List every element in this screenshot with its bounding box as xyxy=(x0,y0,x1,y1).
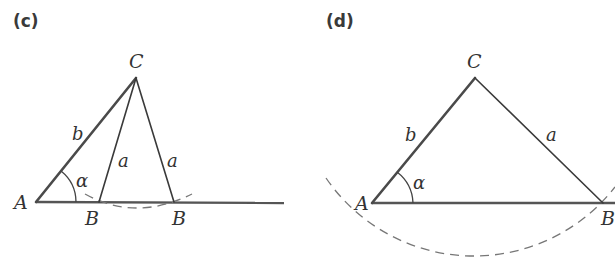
panel-d-label: (d) xyxy=(326,11,354,31)
panel-c-label-b: b xyxy=(72,123,84,144)
panel-c-vertex-B2: B xyxy=(171,207,186,229)
panel-c: (c) C A B B b a a α xyxy=(12,11,284,229)
panel-c-angle-arc xyxy=(61,171,76,202)
panel-c-side-a1 xyxy=(99,78,136,202)
panel-d-dashed-arc xyxy=(326,178,615,256)
panel-c-vertex-B1: B xyxy=(84,207,99,229)
panel-c-label-a2: a xyxy=(167,150,178,171)
panel-d-label-a: a xyxy=(546,124,557,145)
panel-d-angle-alpha: α xyxy=(413,172,425,193)
panel-d-side-a xyxy=(475,78,603,203)
panel-c-side-a2 xyxy=(136,78,174,202)
panel-d-label-b: b xyxy=(405,124,417,145)
panel-d-vertex-B: B xyxy=(600,207,615,229)
panel-d-vertex-C: C xyxy=(467,50,482,72)
panel-c-vertex-A: A xyxy=(12,191,28,213)
panel-d: (d) C A B b a α xyxy=(326,11,615,256)
panel-d-vertex-A: A xyxy=(353,192,369,214)
panel-c-baseline xyxy=(36,202,284,203)
panel-c-vertex-C: C xyxy=(129,50,144,72)
panel-c-angle-alpha: α xyxy=(76,170,88,191)
triangle-diagram: (c) C A B B b a a α (d) xyxy=(0,0,615,264)
panel-d-angle-arc xyxy=(397,172,413,203)
panel-c-label-a1: a xyxy=(118,150,129,171)
panel-c-label: (c) xyxy=(13,11,39,31)
